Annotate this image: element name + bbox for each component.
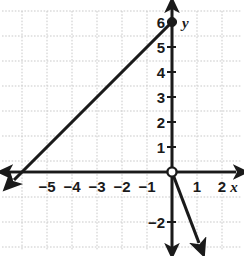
x-tick-label-neg3: −3 bbox=[88, 178, 105, 195]
x-tick-label-neg1: −1 bbox=[138, 178, 155, 195]
y-tick-label-6: 6 bbox=[157, 14, 165, 31]
left-ray-line bbox=[14, 22, 172, 180]
y-axis-label: y bbox=[180, 15, 189, 31]
x-tick-label-2: 2 bbox=[218, 178, 226, 195]
y-tick-label-3: 3 bbox=[157, 89, 165, 106]
y-tick-label-4: 4 bbox=[157, 64, 166, 81]
x-axis-label: x bbox=[229, 179, 238, 195]
x-tick-label-1: 1 bbox=[193, 178, 201, 195]
coordinate-plane-svg: 6 5 4 3 2 1 −2 −5 −4 −3 −2 −1 1 2 y x bbox=[0, 0, 244, 256]
left-ray-series bbox=[14, 22, 172, 180]
y-tick-label-2: 2 bbox=[157, 114, 165, 131]
grid-lines bbox=[2, 11, 241, 250]
graph-figure: 6 5 4 3 2 1 −2 −5 −4 −3 −2 −1 1 2 y x bbox=[0, 0, 244, 256]
x-tick-label-neg5: −5 bbox=[38, 178, 55, 195]
y-tick-label-neg2: −2 bbox=[148, 214, 165, 231]
x-tick-label-neg2: −2 bbox=[113, 178, 130, 195]
y-tick-label-1: 1 bbox=[157, 139, 165, 156]
x-tick-label-neg4: −4 bbox=[63, 178, 81, 195]
y-tick-label-5: 5 bbox=[157, 39, 165, 56]
open-point-marker bbox=[167, 167, 176, 176]
closed-point-marker bbox=[167, 17, 176, 26]
